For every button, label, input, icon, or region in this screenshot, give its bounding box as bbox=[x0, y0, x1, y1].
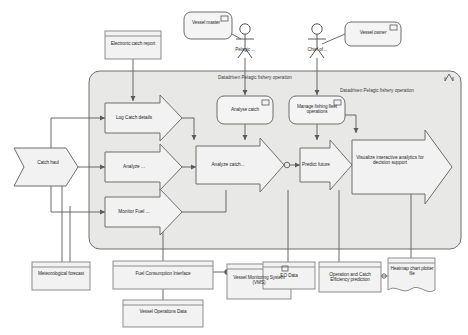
process-log-catch-details-label: Log Catch details bbox=[107, 115, 161, 120]
catch-haul-label: Catch haul bbox=[26, 160, 70, 165]
actor-chief-label: Chief of... bbox=[297, 47, 337, 52]
actor-chief-figure bbox=[308, 24, 326, 58]
object-operation-catch-efficiency-label: Operation and Catch Efficiency predictio… bbox=[320, 272, 380, 282]
actor-pelagic-label: Pelagic ... bbox=[225, 47, 265, 52]
object-fuel-consumption-interface-label: Fuel Consumption Interface bbox=[118, 271, 208, 276]
process-monitor-fuel-label: Monitor Fuel ... bbox=[107, 209, 161, 214]
object-meteorological-forecast-label: Meteorological forecast bbox=[33, 271, 89, 276]
object-electronic-catch-report-label: Electronic catch report bbox=[107, 41, 159, 46]
object-eo-data-label: EO Data bbox=[265, 273, 313, 278]
actor-pelagic-figure bbox=[236, 24, 254, 58]
process-predict-future-label: Predict future bbox=[298, 162, 334, 167]
object-heatmap-chart-plotter-label: Heatmap chart plotter file bbox=[390, 266, 434, 276]
process-visualize-analytics-label: Visualize interactive analytics for deci… bbox=[356, 155, 424, 165]
role-vessel-owner-label: Vessel owner bbox=[347, 30, 399, 35]
catch-haul-shape bbox=[14, 148, 78, 186]
process-analyze-catch-label: Analyze catch... bbox=[198, 162, 258, 167]
container-inner-title: Datadriven Pelagic fishery operation bbox=[340, 88, 414, 93]
role-vessel-master-label: Vessel master bbox=[186, 20, 226, 25]
container-outer-title: Datadriven Pelagic fishery operation bbox=[218, 75, 292, 80]
process-analyze-label: Analyze ... bbox=[107, 164, 161, 169]
object-vessel-operations-data-label: Vessel Operations Data bbox=[125, 309, 201, 314]
diagram-canvas: Datadriven Pelagic fishery operation Dat… bbox=[0, 0, 468, 335]
function-analyse-catch-label: Analyse catch bbox=[219, 107, 271, 112]
function-manage-fishing-fleet-label: Manage fishing fleet operations bbox=[291, 104, 343, 114]
